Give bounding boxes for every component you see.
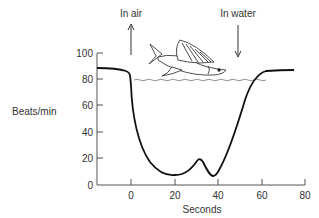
- y-tick-60: 60: [82, 100, 94, 111]
- y-tick-20: 20: [82, 153, 94, 164]
- in-air-label: In air: [120, 8, 143, 19]
- x-tick-0: 0: [128, 190, 134, 201]
- x-tick-60: 60: [256, 190, 268, 201]
- y-tick-40: 40: [82, 127, 94, 138]
- y-tick-labels: 100 80 60 40 20 0: [76, 48, 93, 191]
- heart-rate-chart: 100 80 60 40 20 0 0 20 40 60 80 Beats/mi…: [0, 0, 319, 218]
- down-arrow-icon: [235, 25, 241, 57]
- in-water-label: In water: [220, 8, 256, 19]
- y-axis-label: Beats/min: [12, 106, 56, 117]
- heart-rate-curve: [97, 68, 294, 176]
- x-tick-labels: 0 20 40 60 80: [128, 190, 311, 201]
- up-arrow-icon: [128, 24, 134, 55]
- x-tick-80: 80: [299, 190, 311, 201]
- x-tick-40: 40: [212, 190, 224, 201]
- x-axis-label: Seconds: [183, 204, 222, 215]
- y-tick-80: 80: [82, 74, 94, 85]
- x-tick-20: 20: [169, 190, 181, 201]
- flying-fish-icon: [149, 40, 226, 76]
- y-tick-0: 0: [87, 180, 93, 191]
- y-tick-100: 100: [76, 48, 93, 59]
- water-surface: [134, 79, 266, 81]
- x-ticks: [131, 179, 305, 185]
